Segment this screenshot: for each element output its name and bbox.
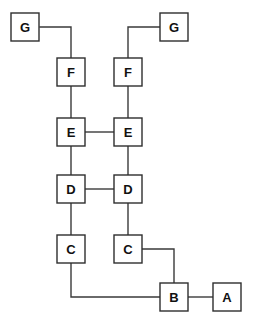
- node-label-g1: G: [20, 20, 30, 35]
- node-label-d1: D: [66, 182, 75, 197]
- node-f1[interactable]: F: [57, 58, 85, 86]
- node-label-c1: C: [66, 242, 76, 257]
- node-label-e2: E: [124, 125, 133, 140]
- node-d1[interactable]: D: [57, 175, 85, 203]
- edge-c2-to-b1: [142, 249, 174, 283]
- edge-c1-to-b1: [71, 263, 160, 297]
- node-c1[interactable]: C: [57, 235, 85, 263]
- node-layer: GGFFEEDDCCBA: [11, 13, 241, 311]
- node-label-g2: G: [169, 20, 179, 35]
- node-label-a1: A: [222, 290, 232, 305]
- edge-g2-to-f2: [128, 27, 160, 58]
- node-b1[interactable]: B: [160, 283, 188, 311]
- node-label-d2: D: [123, 182, 132, 197]
- node-d2[interactable]: D: [114, 175, 142, 203]
- diagram-canvas: GGFFEEDDCCBA: [0, 0, 257, 318]
- node-e2[interactable]: E: [114, 118, 142, 146]
- node-label-f1: F: [67, 65, 75, 80]
- edge-g1-to-f1: [40, 27, 71, 58]
- node-label-f2: F: [124, 65, 132, 80]
- node-f2[interactable]: F: [114, 58, 142, 86]
- node-c2[interactable]: C: [114, 235, 142, 263]
- node-label-e1: E: [67, 125, 76, 140]
- node-e1[interactable]: E: [57, 118, 85, 146]
- node-label-c2: C: [123, 242, 133, 257]
- node-g1[interactable]: G: [11, 13, 39, 41]
- node-label-b1: B: [169, 290, 178, 305]
- node-g2[interactable]: G: [160, 13, 188, 41]
- node-a1[interactable]: A: [213, 283, 241, 311]
- diagram-svg: GGFFEEDDCCBA: [0, 0, 257, 318]
